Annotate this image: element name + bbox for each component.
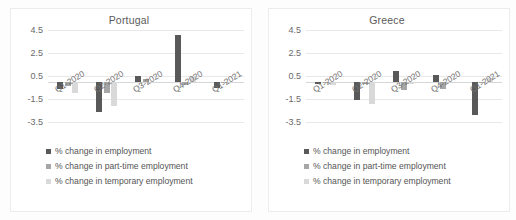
- bar-group: Q4-2020: [166, 30, 205, 122]
- legend-item-part-time: % change in part-time employment: [46, 161, 193, 171]
- bar-group: Q1-2021: [205, 30, 244, 122]
- legend-label-part-time: % change in part-time employment: [313, 161, 446, 171]
- legend-portugal: % change in employment % change in part-…: [46, 146, 193, 186]
- legend-item-temporary: % change in temporary employment: [304, 176, 451, 186]
- y-axis-tick-label: -1.5: [27, 94, 43, 104]
- legend-swatch-icon-employment: [46, 149, 51, 154]
- bar-group: Q4-2020: [424, 30, 463, 122]
- x-axis-tick-label: Q1-2020: [311, 68, 344, 94]
- legend-label-employment: % change in employment: [313, 146, 410, 156]
- bar-group: Q1-2020: [306, 30, 345, 122]
- bar-group: Q2-2020: [345, 30, 384, 122]
- legend-item-temporary: % change in temporary employment: [46, 176, 193, 186]
- figure-root: Portugal 4.52.50.5-1.5-3.5Q1-2020Q2-2020…: [0, 0, 516, 220]
- chart-panel-portugal: Portugal 4.52.50.5-1.5-3.5Q1-2020Q2-2020…: [0, 0, 258, 220]
- legend-swatch-icon-temporary: [46, 179, 51, 184]
- legend-swatch-icon-employment: [304, 149, 309, 154]
- legend-label-part-time: % change in part-time employment: [55, 161, 188, 171]
- bar-group: Q1-2020: [48, 30, 87, 122]
- y-axis-tick-label: -3.5: [27, 117, 43, 127]
- legend-swatch-icon-temporary: [304, 179, 309, 184]
- y-axis-tick-label: 4.5: [30, 25, 43, 35]
- y-axis-tick-label: 0.5: [288, 71, 301, 81]
- bar-group: Q1-2021: [463, 30, 502, 122]
- legend-item-employment: % change in employment: [304, 146, 451, 156]
- bar: [111, 82, 117, 106]
- y-axis-tick-label: 4.5: [288, 25, 301, 35]
- legend-swatch-icon-part-time: [46, 164, 51, 169]
- gridline: [306, 122, 502, 123]
- y-axis-tick-label: 2.5: [288, 48, 301, 58]
- legend-label-temporary: % change in temporary employment: [55, 176, 193, 186]
- x-axis-tick-label: Q3-2020: [131, 68, 164, 94]
- legend-label-temporary: % change in temporary employment: [313, 176, 451, 186]
- y-axis-tick-label: -3.5: [285, 117, 301, 127]
- bar-group: Q2-2020: [87, 30, 126, 122]
- x-axis-tick-label: Q1-2020: [53, 68, 86, 94]
- legend-item-employment: % change in employment: [46, 146, 193, 156]
- chart-panel-greece: Greece 4.52.50.5-1.5-3.5Q1-2020Q2-2020Q3…: [258, 0, 516, 220]
- gridline: [48, 122, 244, 123]
- plot-area-portugal: 4.52.50.5-1.5-3.5Q1-2020Q2-2020Q3-2020Q4…: [48, 30, 244, 122]
- y-axis-tick-label: 2.5: [30, 48, 43, 58]
- legend-label-employment: % change in employment: [55, 146, 152, 156]
- legend-greece: % change in employment % change in part-…: [304, 146, 451, 186]
- x-axis-tick-label: Q2-2020: [350, 68, 383, 94]
- legend-swatch-icon-part-time: [304, 164, 309, 169]
- plot-area-greece: 4.52.50.5-1.5-3.5Q1-2020Q2-2020Q3-2020Q4…: [306, 30, 502, 122]
- legend-item-part-time: % change in part-time employment: [304, 161, 451, 171]
- bar-group: Q3-2020: [126, 30, 165, 122]
- y-axis-tick-label: 0.5: [30, 71, 43, 81]
- bar-group: Q3-2020: [384, 30, 423, 122]
- y-axis-tick-label: -1.5: [285, 94, 301, 104]
- bar: [175, 35, 181, 82]
